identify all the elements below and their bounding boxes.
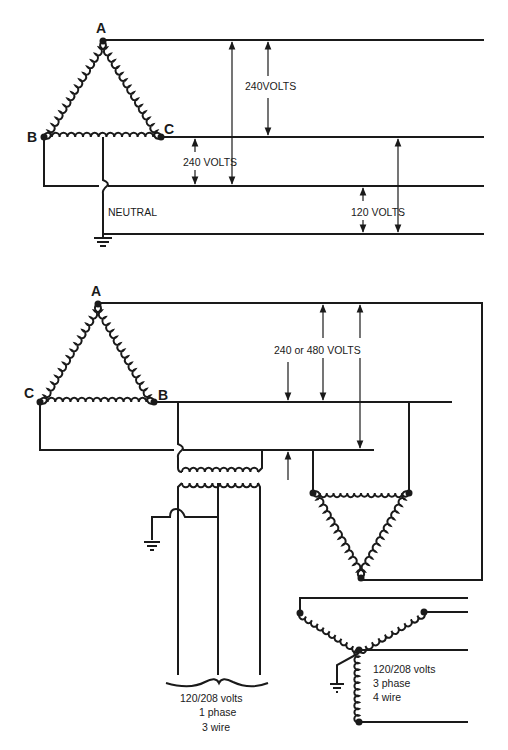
xfmr-secondary-coil [182, 483, 258, 487]
bottom-delta-diagram: A C B 240 or 480 VOLTS 120/208 volts 1 p… [24, 283, 482, 733]
label-240-or-480: 240 or 480 VOLTS [274, 344, 361, 356]
xfmr-ground-lead [152, 509, 218, 540]
xfmr-primary-lead-c [258, 450, 262, 472]
winding-b-a-bottom [95, 304, 154, 404]
label-240-c-b: 240 VOLTS [183, 156, 237, 168]
three-phase-wire: 4 wire [373, 691, 401, 703]
wye-ground-icon [330, 684, 344, 692]
winding-a-b [44, 41, 106, 139]
wye-winding-bottom [354, 650, 359, 723]
wye-node-left [297, 610, 304, 617]
single-phase-wire: 3 wire [202, 721, 230, 733]
wye-node-center [356, 647, 363, 654]
node-b-dot [41, 134, 48, 141]
winding-b-c [44, 133, 161, 137]
xfmr-ground-icon [144, 542, 160, 550]
lower-winding-left [313, 491, 364, 578]
primary-winding [182, 468, 258, 472]
label-120-volts: 120 VOLTS [351, 206, 405, 218]
winding-c-b-bottom [40, 398, 154, 402]
lower-delta-windings [313, 491, 409, 578]
single-phase-phase: 1 phase [199, 706, 237, 718]
wye-lead-left [300, 598, 468, 612]
single-phase-brace [166, 679, 268, 686]
node-c-label: C [164, 121, 174, 137]
node-b-label-bottom: B [158, 387, 168, 403]
lower-winding-right [358, 491, 409, 578]
wye-winding-left [299, 613, 359, 653]
line-c-bottom [40, 402, 174, 450]
wye-node-bottom [356, 719, 363, 726]
label-240-a-c: 240VOLTS [245, 80, 296, 92]
winding-a-c-bottom [40, 304, 101, 404]
single-phase-voltage: 120/208 volts [180, 692, 242, 704]
line-b [44, 137, 99, 186]
neutral-label: NEUTRAL [108, 206, 157, 218]
xfmr-primary-lead-b [178, 402, 183, 472]
three-phase-voltage: 120/208 volts [373, 663, 435, 675]
wye-winding-right [359, 612, 425, 653]
wiring-diagram: A B C 240VOLTS 240 VOLTS 120 VOLTS NEUTR… [0, 0, 508, 750]
node-a-label-bottom: A [91, 283, 101, 299]
top-delta-windings [44, 41, 161, 139]
xfmr-secondary-lead-right [258, 483, 260, 675]
top-ground-icon [94, 238, 112, 246]
lower-winding-top [313, 493, 409, 497]
node-a-dot [100, 38, 107, 45]
top-delta-diagram: A B C 240VOLTS 240 VOLTS 120 VOLTS NEUTR… [27, 20, 484, 246]
lower-delta-node-bottom [358, 575, 365, 582]
three-phase-phase: 3 phase [373, 677, 411, 689]
node-c-dot-bottom [37, 399, 44, 406]
winding-c-a [100, 41, 161, 139]
secondary-winding [182, 483, 258, 487]
wye-node-right [421, 609, 428, 616]
node-a-label: A [96, 20, 106, 36]
node-a-dot-bottom [95, 301, 102, 308]
node-b-dot-bottom [151, 399, 158, 406]
xfmr-primary-coil [182, 468, 258, 472]
lower-delta-node-left [310, 490, 317, 497]
neutral-tap [103, 137, 108, 238]
bottom-delta-windings [40, 304, 154, 404]
lower-delta-node-right [406, 490, 413, 497]
node-c-label-bottom: C [24, 385, 34, 401]
node-b-label: B [27, 129, 37, 145]
